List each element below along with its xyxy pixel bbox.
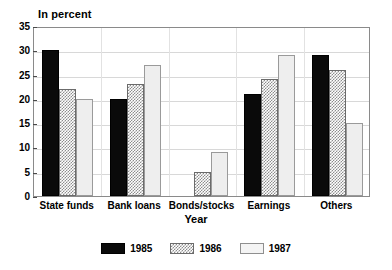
y-tick-label: 5 xyxy=(2,168,30,178)
bar-1985-state-funds xyxy=(42,50,59,196)
legend-entry-1985: 1985 xyxy=(101,243,152,254)
bar-1985-others xyxy=(312,55,329,196)
legend-label: 1987 xyxy=(269,244,291,254)
bar-1987-earnings xyxy=(278,55,295,196)
bar-1987-others xyxy=(346,123,363,196)
legend-entry-1987: 1987 xyxy=(240,243,291,254)
bar-1986-state-funds xyxy=(59,89,76,196)
y-tick-mark xyxy=(33,173,37,174)
bar-1986-others xyxy=(329,70,346,196)
y-tick-mark xyxy=(33,51,37,52)
y-tick-mark xyxy=(33,100,37,101)
y-tick-mark xyxy=(33,27,37,28)
x-tick-label: Others xyxy=(303,200,370,211)
x-tick-label: Bonds/stocks xyxy=(168,200,235,211)
legend: 198519861987 xyxy=(0,243,392,254)
group-separator xyxy=(169,28,170,196)
y-tick-label: 30 xyxy=(2,46,30,56)
bar-1985-bank-loans xyxy=(110,99,127,196)
y-tick-label: 15 xyxy=(2,119,30,129)
group-separator xyxy=(101,28,102,196)
legend-swatch-1986 xyxy=(170,243,194,254)
legend-swatch-1987 xyxy=(240,243,264,254)
y-tick-label: 0 xyxy=(2,192,30,202)
bar-1987-bonds-stocks xyxy=(211,152,228,196)
bar-1986-bonds-stocks xyxy=(194,172,211,196)
legend-label: 1985 xyxy=(130,244,152,254)
legend-entry-1986: 1986 xyxy=(170,243,221,254)
x-tick-label: Bank loans xyxy=(100,200,167,211)
chart-title: In percent xyxy=(38,8,92,20)
x-axis-title: Year xyxy=(0,213,392,225)
y-tick-mark xyxy=(33,76,37,77)
legend-label: 1986 xyxy=(199,244,221,254)
bar-1986-bank-loans xyxy=(127,84,144,196)
bar-1986-earnings xyxy=(261,79,278,196)
group-separator xyxy=(304,28,305,196)
legend-swatch-1985 xyxy=(101,243,125,254)
y-axis: 05101520253035 xyxy=(0,27,30,197)
x-tick-label: Earnings xyxy=(235,200,302,211)
y-tick-mark xyxy=(33,197,37,198)
y-tick-mark xyxy=(33,148,37,149)
plot-area xyxy=(33,27,370,197)
y-tick-label: 35 xyxy=(2,22,30,32)
bar-1985-earnings xyxy=(244,94,261,196)
bar-chart-figure: In percent 05101520253035 State fundsBan… xyxy=(0,0,392,270)
y-tick-label: 10 xyxy=(2,143,30,153)
bar-1987-bank-loans xyxy=(144,65,161,196)
gridline xyxy=(34,52,369,53)
group-separator xyxy=(236,28,237,196)
bar-1987-state-funds xyxy=(76,99,93,196)
y-tick-label: 25 xyxy=(2,71,30,81)
x-tick-label: State funds xyxy=(33,200,100,211)
y-tick-label: 20 xyxy=(2,95,30,105)
y-tick-mark xyxy=(33,124,37,125)
